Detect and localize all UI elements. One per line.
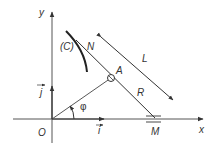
length-r-label: R <box>137 87 144 98</box>
y-axis-label: y <box>38 7 45 18</box>
angle-phi-label: φ <box>80 101 87 112</box>
length-l-label: L <box>142 53 148 64</box>
angle-arc-phi <box>70 106 74 119</box>
unit-i-label: i <box>98 125 101 136</box>
unit-j-label: j <box>38 87 43 98</box>
mechanism-diagram: y x O i j φ (C) N A M L R <box>0 0 215 151</box>
point-n-label: N <box>87 41 95 52</box>
origin-label: O <box>38 127 46 138</box>
point-m-label: M <box>151 126 160 137</box>
radius-line-oa <box>52 78 111 119</box>
x-axis-label: x <box>198 124 205 135</box>
point-a-label: A <box>115 65 123 76</box>
curve-c-label: (C) <box>60 41 74 52</box>
